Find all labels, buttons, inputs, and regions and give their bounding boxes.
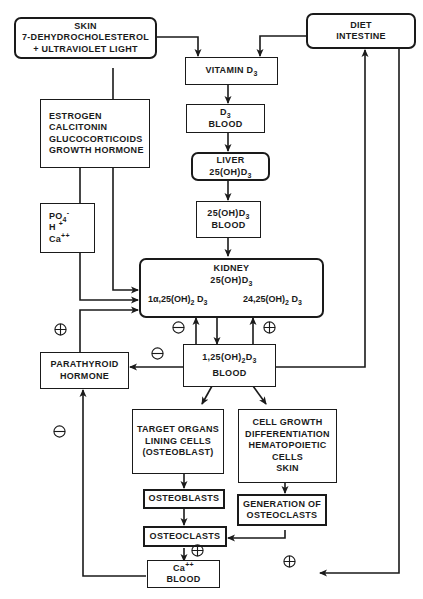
kidney-1a25-product: 1α,25(OH)2 D3 (148, 294, 207, 304)
differentiation-label: DIFFERENTIATION (245, 429, 330, 441)
skin-precursor: 7-DEHYDROCHOLESTEROL (22, 32, 149, 44)
vitamin-d3-subscript: 3 (253, 70, 257, 77)
d3-blood-label: BLOOD (209, 119, 243, 131)
target-organs-label: TARGET ORGANS (137, 424, 219, 436)
hydrogen-label: H (49, 222, 56, 232)
liver-product-subscript: 3 (247, 171, 251, 178)
vitamin-d3-label: VITAMIN D (205, 65, 253, 75)
calcium-label: Ca (49, 234, 61, 244)
intestine-label: INTESTINE (336, 31, 386, 43)
liver-node: LIVER 25(OH)D3 (191, 152, 270, 181)
osteoblasts-label: OSTEOBLASTS (149, 493, 220, 505)
liver-label: LIVER (216, 155, 244, 167)
skin-label: SKIN (74, 21, 97, 33)
minus-sign-icon (151, 347, 164, 360)
cell-growth-label: CELL GROWTH (252, 417, 322, 429)
calcitriol-label: 1,25(OH) (202, 352, 241, 362)
calcium-blood-ion: Ca (173, 563, 185, 573)
kidney-2425-product: 24,25(OH)2 D3 (243, 294, 302, 304)
hormone-regulators-node: ESTROGEN CALCITONIN GLUCOCORTICOIDS GROW… (40, 99, 150, 168)
diet-label: DIET (350, 20, 372, 32)
minus-sign-icon (53, 425, 66, 438)
plus-sign-icon (191, 544, 204, 557)
osteoblast-label: (OSTEOBLAST) (142, 447, 213, 459)
d3-label: D (220, 107, 227, 117)
phosphate-label: PO (49, 211, 63, 221)
liver-product: 25(OH)D (209, 167, 247, 177)
skin-uv-light: + ULTRAVIOLET LIGHT (33, 44, 138, 56)
calcitriol-blood-node: 1,25(OH)2D3 BLOOD (183, 344, 276, 387)
hematopoietic-label: HEMATOPOIETIC (248, 440, 326, 452)
kidney-node: KIDNEY 25(OH)D3 (139, 258, 324, 318)
skin-node: SKIN 7-DEHYDROCHOLESTEROL + ULTRAVIOLET … (14, 17, 157, 59)
25ohd3-blood-label: BLOOD (212, 220, 246, 232)
parathyroid-label: PARATHYROID (51, 359, 119, 371)
skin-effect-label: SKIN (276, 463, 299, 475)
hormone-label: HORMONE (60, 371, 109, 383)
estrogen-label: ESTROGEN (49, 111, 102, 123)
osteoclasts-node: OSTEOCLASTS (143, 526, 227, 547)
osteoclasts-gen-label: OSTEOCLASTS (247, 510, 318, 522)
calcitriol-blood-label: BLOOD (213, 368, 247, 380)
plus-sign-icon (54, 323, 67, 336)
d3-blood-node: D3 BLOOD (186, 104, 265, 133)
calcium-blood-node: Ca++ BLOOD (147, 560, 220, 588)
kidney-label: KIDNEY (214, 263, 250, 275)
kidney-substrate: 25(OH)D (210, 275, 248, 285)
parathyroid-hormone-node: PARATHYROID HORMONE (40, 352, 129, 389)
osteoclasts-label: OSTEOCLASTS (150, 531, 221, 543)
ions-node: PO4- H + Ca++ (40, 203, 95, 253)
osteoblasts-node: OSTEOBLASTS (143, 489, 225, 509)
cell-growth-node: CELL GROWTH DIFFERENTIATION HEMATOPOIETI… (238, 409, 337, 483)
25ohd3-blood-node: 25(OH)D3 BLOOD (196, 201, 261, 238)
cells-label: CELLS (272, 452, 303, 464)
target-organs-node: TARGET ORGANS LINING CELLS (OSTEOBLAST) (132, 409, 224, 474)
diet-intestine-node: DIET INTESTINE (306, 13, 416, 49)
plus-sign-icon (263, 321, 276, 334)
calcitonin-label: CALCITONIN (49, 122, 107, 134)
25ohd3-label: 25(OH)D (207, 208, 245, 218)
vitamin-d3-node: VITAMIN D3 (185, 57, 278, 85)
growth-hormone-label: GROWTH HORMONE (49, 145, 144, 157)
lining-cells-label: LINING CELLS (145, 436, 211, 448)
glucocorticoids-label: GLUCOCORTICOIDS (49, 134, 143, 146)
generation-of-label: GENERATION OF (243, 499, 321, 511)
plus-sign-icon (283, 555, 296, 568)
minus-sign-icon (172, 321, 185, 334)
calcium-blood-label: BLOOD (167, 574, 201, 586)
generation-osteoclasts-node: GENERATION OF OSTEOCLASTS (237, 494, 327, 526)
